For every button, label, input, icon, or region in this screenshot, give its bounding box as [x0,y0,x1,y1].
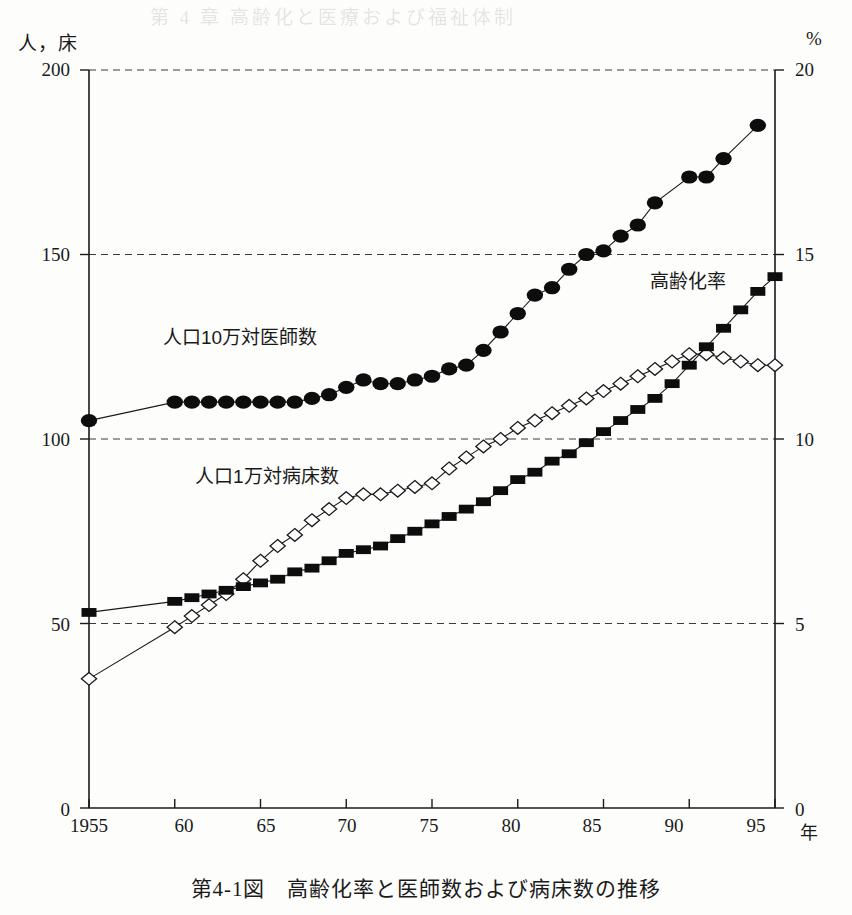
marker-circle [612,229,628,242]
marker-square [665,379,680,388]
marker-circle [372,377,388,390]
marker-square [716,324,731,333]
marker-square [322,556,337,565]
marker-square [253,579,268,588]
marker-square [270,575,285,584]
marker-square [356,545,371,554]
marker-circle [287,396,303,409]
marker-square [493,486,508,495]
marker-square [579,438,594,447]
marker-circle [561,263,577,276]
marker-square [476,497,491,506]
series-line [89,125,758,420]
marker-square [407,527,422,536]
marker-square [459,505,474,514]
series-3 [82,272,783,617]
marker-circle [750,119,766,132]
marker-square [167,597,182,606]
marker-circle [235,396,251,409]
marker-circle [167,396,183,409]
marker-square [630,405,645,414]
marker-square [596,427,611,436]
marker-circle [355,373,371,386]
marker-square [613,416,628,425]
marker-square [82,608,97,617]
marker-square [442,512,457,521]
marker-circle [578,248,594,261]
marker-square [527,468,542,477]
marker-circle [698,170,714,183]
marker-diamond [390,484,405,497]
marker-square [562,449,577,458]
marker-square [733,305,748,314]
marker-square [425,519,440,528]
series-line [89,277,775,613]
marker-diamond [767,359,782,372]
marker-diamond [459,451,474,464]
marker-circle [81,414,97,427]
marker-diamond [356,488,371,501]
marker-square [202,590,217,599]
marker-diamond [167,621,182,634]
marker-circle [218,396,234,409]
marker-square [287,567,302,576]
marker-square [682,361,697,370]
marker-diamond [476,440,491,453]
marker-diamond [407,481,422,494]
figure-page: 第 4 章 高齢化と医療および福祉体制 人，床 % 年 200 150 100 … [0,0,852,915]
marker-circle [527,288,543,301]
marker-circle [475,344,491,357]
figure-caption: 第4-1図 高齢化率と医師数および病床数の推移 [0,872,852,902]
marker-diamond [665,355,680,368]
series-1 [81,119,766,427]
marker-square [304,564,319,573]
marker-circle [458,359,474,372]
marker-diamond [510,422,525,435]
marker-circle [424,370,440,383]
marker-diamond [733,355,748,368]
marker-diamond [562,399,577,412]
marker-circle [304,392,320,405]
marker-square [339,549,354,558]
marker-diamond [682,348,697,361]
marker-circle [338,381,354,394]
marker-square [647,394,662,403]
marker-circle [630,218,646,231]
marker-square [236,582,251,591]
marker-diamond [647,362,662,375]
marker-diamond [339,492,354,505]
marker-diamond [201,599,216,612]
marker-diamond [613,377,628,390]
marker-circle [681,170,697,183]
marker-diamond [184,610,199,623]
marker-circle [407,373,423,386]
marker-square [219,586,234,595]
marker-square [750,287,765,296]
marker-circle [441,362,457,375]
marker-circle [390,377,406,390]
marker-diamond [493,433,508,446]
marker-square [768,272,783,281]
chart-plot-area [0,0,852,915]
marker-diamond [596,385,611,398]
marker-circle [184,396,200,409]
marker-diamond [579,392,594,405]
marker-circle [595,244,611,257]
marker-circle [544,281,560,294]
marker-diamond [544,407,559,420]
marker-diamond [373,488,388,501]
marker-square [390,534,405,543]
marker-square [184,593,199,602]
marker-square [545,457,560,466]
marker-circle [492,325,508,338]
marker-diamond [527,414,542,427]
marker-circle [321,388,337,401]
marker-circle [269,396,285,409]
marker-square [373,542,388,551]
marker-square [699,342,714,351]
marker-diamond [81,672,96,685]
marker-diamond [750,359,765,372]
marker-circle [715,152,731,165]
marker-circle [252,396,268,409]
marker-square [510,475,525,484]
